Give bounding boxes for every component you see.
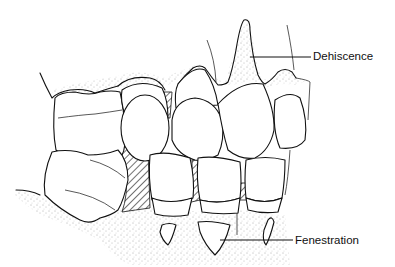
fenestration-label: Fenestration (295, 235, 359, 247)
upper-molar (54, 91, 125, 158)
dentition-drawing (0, 0, 395, 267)
dehiscence-label: Dehiscence (313, 51, 373, 63)
dental-defects-figure: Dehiscence Fenestration (0, 0, 395, 267)
